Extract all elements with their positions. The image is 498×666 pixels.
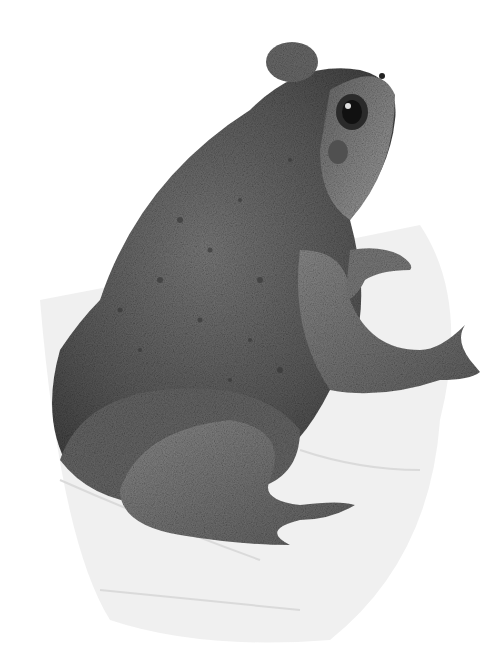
- toad-drawing: [0, 0, 498, 666]
- toad-nostril: [379, 73, 385, 79]
- toad-tympanum: [328, 140, 348, 164]
- toad-illustration: [0, 0, 498, 666]
- toad-eye: [336, 94, 368, 130]
